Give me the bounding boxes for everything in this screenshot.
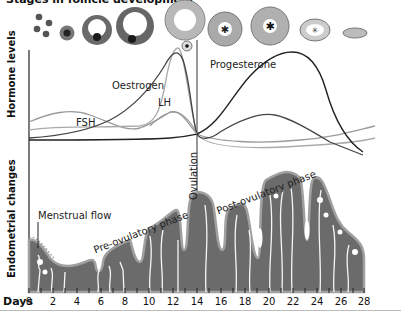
tick-label: 2 [50,296,56,307]
progesterone-curve [29,52,363,152]
tick-label: 12 [167,296,180,307]
tick-label: 28 [358,296,371,307]
lh-curve [29,48,375,148]
tick-label: 22 [287,296,300,307]
tick-label: 14 [191,296,204,307]
bottom-divider [0,310,401,311]
tick-label: 16 [215,296,228,307]
tick-label: 20 [263,296,276,307]
ovulation-label: Ovulation [188,152,199,200]
tick-label: 18 [239,296,252,307]
menstrual-flow-label: Menstrual flow [38,210,111,221]
cycle-chart [0,0,401,312]
oestrogen-label: Oestrogen [112,80,164,91]
tick-label: 6 [98,296,104,307]
tick-label: 8 [122,296,128,307]
progesterone-label: Progesterone [210,59,276,70]
tick-label: 24 [311,296,324,307]
tick-label: 0 [26,296,32,307]
tick-label: 26 [335,296,348,307]
lh-label: LH [158,97,171,108]
tick-label: 10 [143,296,156,307]
tick-label: 4 [74,296,80,307]
fsh-label: FSH [76,117,95,128]
